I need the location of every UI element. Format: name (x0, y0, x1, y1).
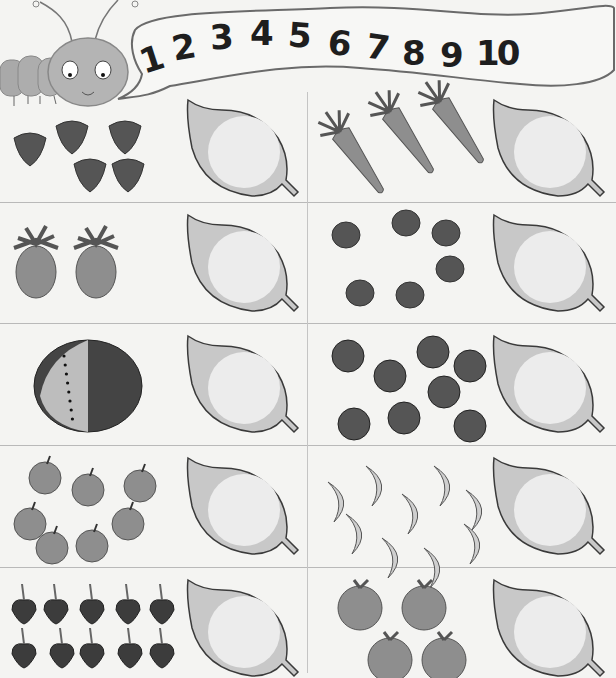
answer-circle[interactable] (514, 116, 586, 188)
orange-icon (402, 580, 446, 630)
number-5: 5 (287, 17, 313, 53)
answer-circle[interactable] (208, 352, 280, 424)
banana-icon (328, 482, 344, 522)
strawberry-icon (109, 121, 141, 154)
orange-icon (368, 632, 412, 678)
apple-icon (72, 468, 104, 506)
pineapple-icon (14, 226, 58, 298)
cell-blueberry (308, 203, 616, 323)
cherry-icon (44, 584, 68, 624)
number-7: 7 (364, 29, 392, 66)
fruit-group (14, 456, 156, 564)
cell-cherry (0, 568, 308, 678)
caterpillar-pupil (101, 73, 105, 77)
blueberry-icon (332, 222, 360, 248)
antenna-curl-left (33, 1, 39, 7)
apple-icon (124, 464, 156, 502)
cell-orange (308, 568, 616, 678)
cell-pineapple (0, 203, 308, 323)
plum-icon (454, 410, 486, 442)
strawberry-icon (56, 121, 88, 154)
cherry-icon (80, 584, 104, 624)
banana-icon (464, 524, 480, 564)
cell-carrot (308, 92, 616, 202)
apple-icon (14, 502, 46, 540)
plum-icon (417, 336, 449, 368)
cherry-icon (150, 628, 174, 668)
cherry-icon (12, 628, 36, 668)
number-8: 8 (402, 36, 426, 70)
blueberry-icon (346, 280, 374, 306)
answer-leaf[interactable] (188, 336, 299, 432)
fruit-group (338, 580, 466, 678)
answer-circle[interactable] (514, 352, 586, 424)
answer-circle[interactable] (514, 231, 586, 303)
cherry-icon (116, 584, 140, 624)
apple-icon (112, 502, 144, 540)
caterpillar-pupil (68, 73, 72, 77)
cherry-icon (150, 584, 174, 624)
number-6: 6 (326, 25, 353, 61)
cell-strawberry (0, 92, 308, 202)
answer-circle[interactable] (208, 231, 280, 303)
pineapple-icon (74, 226, 118, 298)
plum-icon (374, 360, 406, 392)
cherry-icon (118, 628, 142, 668)
number-3: 3 (209, 19, 235, 55)
strawberry-icon (112, 159, 144, 192)
banana-icon (466, 490, 482, 530)
answer-leaf[interactable] (188, 215, 299, 311)
answer-circle[interactable] (208, 116, 280, 188)
cherry-icon (50, 628, 74, 668)
watermelon-icon (34, 340, 142, 432)
number-10: 10 (476, 36, 517, 70)
blueberry-icon (392, 210, 420, 236)
cherry-icon (12, 584, 36, 624)
fruit-group (12, 584, 174, 668)
answer-leaf[interactable] (188, 458, 299, 554)
blueberry-icon (396, 282, 424, 308)
apple-icon (29, 456, 61, 494)
plum-icon (428, 376, 460, 408)
answer-leaf[interactable] (188, 580, 299, 676)
answer-circle[interactable] (514, 474, 586, 546)
answer-leaf[interactable] (494, 215, 605, 311)
carrot-icon (361, 82, 447, 183)
number-9: 9 (440, 38, 464, 72)
cell-banana (308, 446, 616, 567)
answer-circle[interactable] (208, 596, 280, 668)
fruit-group (332, 336, 486, 442)
antenna-curl-right (132, 1, 138, 7)
orange-icon (338, 580, 382, 630)
answer-leaf[interactable] (188, 100, 299, 196)
cell-watermelon (0, 324, 308, 445)
apple-icon (76, 524, 108, 562)
fruit-group (14, 226, 118, 298)
number-4: 4 (250, 16, 274, 50)
fruit-group (34, 340, 142, 432)
strawberry-icon (74, 159, 106, 192)
banana-icon (346, 514, 362, 554)
cell-apple (0, 446, 308, 567)
answer-circle[interactable] (514, 596, 586, 668)
strawberry-icon (14, 133, 46, 166)
plum-icon (454, 350, 486, 382)
banana-icon (434, 466, 450, 506)
blueberry-icon (432, 220, 460, 246)
caterpillar-antenna-left (40, 2, 72, 42)
plum-icon (338, 408, 370, 440)
plum-icon (388, 402, 420, 434)
blueberry-icon (436, 256, 464, 282)
answer-leaf[interactable] (494, 336, 605, 432)
plum-icon (332, 340, 364, 372)
cell-plum (308, 324, 616, 445)
answer-leaf[interactable] (494, 100, 605, 196)
answer-leaf[interactable] (494, 458, 605, 554)
banana-icon (366, 466, 382, 506)
answer-circle[interactable] (208, 474, 280, 546)
answer-leaf[interactable] (494, 580, 605, 676)
orange-icon (422, 632, 466, 678)
fruit-group (332, 210, 464, 308)
cherry-icon (80, 628, 104, 668)
caterpillar-antenna-right (95, 0, 118, 40)
